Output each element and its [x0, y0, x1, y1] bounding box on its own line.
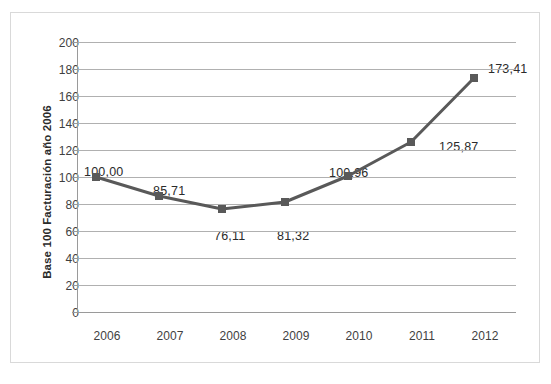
- y-tick-label: 200: [31, 36, 79, 50]
- y-tick-label: 40: [31, 252, 79, 266]
- x-tick-label: 2008: [203, 329, 263, 343]
- x-tick-label: 2012: [455, 329, 515, 343]
- data-point-label: 100,96: [329, 166, 368, 180]
- x-tick-label: 2009: [266, 329, 326, 343]
- data-point-label: 76,11: [214, 229, 245, 243]
- x-tick-label: 2006: [77, 329, 137, 343]
- data-point-label: 81,32: [277, 229, 309, 243]
- y-tick-label: 180: [31, 63, 79, 77]
- data-point-label: 125,87: [439, 140, 478, 154]
- y-tick-label: 60: [31, 225, 79, 239]
- y-tick-label: 140: [31, 117, 79, 131]
- y-tick-label: 120: [31, 144, 79, 158]
- y-tick-label: 160: [31, 90, 79, 104]
- y-tick-label: 20: [31, 279, 79, 293]
- data-point-label: 100,00: [84, 165, 123, 179]
- y-tick-label: 100: [31, 171, 79, 185]
- x-tick-label: 2010: [329, 329, 389, 343]
- y-tick-label: 80: [31, 198, 79, 212]
- x-tick-label: 2007: [140, 329, 200, 343]
- chart-frame: Base 100 Facturación año 2006 200 180 16…: [10, 12, 540, 363]
- caption-ghost-text: [70, 371, 500, 382]
- y-tick-label: 0: [31, 306, 79, 320]
- data-point-label: 173,41: [488, 62, 527, 76]
- data-point-label: 85,71: [153, 184, 185, 198]
- x-tick-label: 2011: [392, 329, 452, 343]
